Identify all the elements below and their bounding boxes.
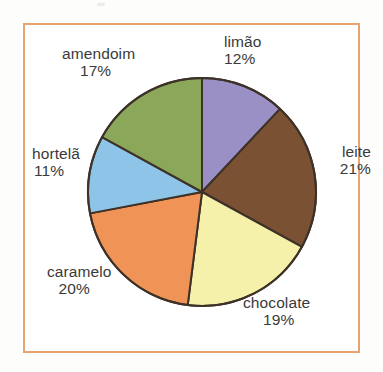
- scanned-page-background: limão 12% leite 21% chocolate 19% carame…: [0, 0, 383, 372]
- pie-label-limao: limão 12%: [224, 33, 262, 68]
- pie-label-chocolate-name: chocolate: [243, 294, 310, 311]
- pie-label-leite-percent: 21%: [340, 160, 371, 177]
- pie-label-amendoim-percent: 17%: [62, 62, 135, 79]
- pie-label-chocolate: chocolate 19%: [243, 294, 310, 329]
- pie-label-amendoim-name: amendoim: [62, 45, 135, 62]
- pie-label-leite-name: leite: [340, 143, 371, 160]
- pie-label-caramelo: caramelo 20%: [47, 263, 112, 298]
- pie-label-hortela: hortelã 11%: [32, 145, 80, 180]
- pie-chart-svg: [0, 0, 383, 372]
- pie-label-limao-percent: 12%: [224, 50, 262, 67]
- pie-label-chocolate-percent: 19%: [243, 311, 310, 328]
- pie-label-hortela-percent: 11%: [32, 162, 80, 179]
- pie-label-amendoim: amendoim 17%: [62, 45, 135, 80]
- pie-label-limao-name: limão: [224, 33, 262, 50]
- pie-label-caramelo-percent: 20%: [47, 280, 112, 297]
- pie-label-caramelo-name: caramelo: [47, 263, 112, 280]
- pie-label-hortela-name: hortelã: [32, 145, 80, 162]
- pie-label-leite: leite 21%: [340, 143, 371, 178]
- pie-chart: limão 12% leite 21% chocolate 19% carame…: [0, 0, 383, 372]
